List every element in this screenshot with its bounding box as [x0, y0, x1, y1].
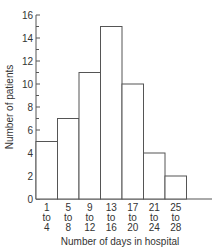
histogram-bar	[165, 176, 187, 199]
x-tick-label: 24	[149, 222, 161, 233]
x-tick-label: 28	[170, 222, 182, 233]
histogram-chart: 0246810121416 1to45to89to1213to1617to202…	[0, 0, 220, 251]
x-axis-title: Number of days in hospital	[61, 236, 179, 247]
x-tick-label: 8	[65, 222, 71, 233]
x-tick-label: 16	[106, 222, 118, 233]
y-tick-label: 14	[22, 33, 34, 44]
histogram-bar	[122, 84, 144, 199]
histogram-bar	[101, 27, 123, 200]
x-tick-label: 20	[127, 222, 139, 233]
x-tick-label: 4	[44, 222, 50, 233]
y-tick-label: 0	[27, 194, 33, 205]
y-axis-title: Number of patients	[4, 65, 15, 150]
y-tick-label: 16	[22, 10, 34, 21]
bars	[36, 27, 187, 200]
y-tick-label: 4	[27, 148, 33, 159]
x-tick-labels: 1to45to89to1213to1617to2021to2425to28	[43, 202, 182, 233]
histogram-bar	[79, 73, 101, 200]
x-tick-label: 12	[84, 222, 96, 233]
histogram-bar	[36, 142, 58, 200]
histogram-bar	[58, 119, 80, 200]
y-tick-label: 8	[27, 102, 33, 113]
y-tick-label: 12	[22, 56, 34, 67]
y-tick-label: 6	[27, 125, 33, 136]
y-tick-label: 2	[27, 171, 33, 182]
y-tick-label: 10	[22, 79, 34, 90]
histogram-bar	[144, 153, 166, 199]
